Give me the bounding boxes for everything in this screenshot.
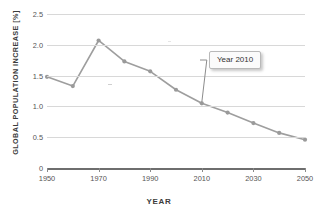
y-tick-label: 2.0: [33, 40, 43, 49]
y-tick-label: 2.5: [33, 10, 43, 19]
x-tick: [202, 168, 203, 172]
x-tick-label: 2030: [245, 174, 261, 183]
plot-area: 00.51.01.52.02.5: [47, 14, 305, 168]
data-point: [97, 38, 101, 42]
gridline: [47, 137, 305, 138]
data-point: [148, 69, 152, 73]
x-tick-label: 1970: [90, 174, 106, 183]
annotation-callout-year-2010: Year 2010: [209, 51, 261, 69]
x-axis-title: YEAR: [0, 197, 318, 206]
x-tick-label: 2050: [297, 174, 313, 183]
gridline: [47, 76, 305, 77]
x-tick: [253, 168, 254, 172]
data-point: [251, 121, 255, 125]
data-point: [303, 138, 307, 142]
x-tick: [305, 168, 306, 172]
data-series-svg: [47, 14, 305, 168]
scan-speck: [168, 41, 171, 42]
gridline: [47, 14, 305, 15]
x-tick-label: 2010: [194, 174, 210, 183]
data-point: [122, 59, 126, 63]
x-tick-label: 1990: [142, 174, 158, 183]
x-tick-label: 1950: [39, 174, 55, 183]
data-point: [71, 84, 75, 88]
scan-speck: [108, 84, 112, 85]
x-tick: [99, 168, 100, 172]
x-tick: [150, 168, 151, 172]
y-tick-label: 0: [39, 164, 43, 173]
x-axis-line: [47, 168, 306, 170]
data-point: [174, 88, 178, 92]
gridline: [47, 106, 305, 107]
x-tick: [47, 168, 48, 172]
data-point: [200, 101, 204, 105]
series-markers: [45, 38, 307, 141]
population-increase-line-chart: GLOBAL POPULATION INCREASE [%] YEAR 00.5…: [0, 0, 318, 216]
data-point: [226, 110, 230, 114]
gridline: [47, 45, 305, 46]
y-tick-label: 1.0: [33, 102, 43, 111]
y-tick-label: 0.5: [33, 133, 43, 142]
y-axis-title: GLOBAL POPULATION INCREASE [%]: [11, 0, 20, 168]
data-point: [277, 131, 281, 135]
y-tick-label: 1.5: [33, 71, 43, 80]
